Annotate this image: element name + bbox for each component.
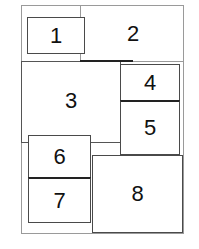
region-3: 3 <box>21 61 121 143</box>
region-4: 4 <box>120 64 180 101</box>
region-7-label: 7 <box>53 190 65 212</box>
region-4-label: 4 <box>144 72 156 94</box>
region-2: 2 <box>80 5 184 62</box>
region-5: 5 <box>120 100 180 155</box>
region-2-label: 2 <box>127 23 139 45</box>
region-1: 1 <box>27 17 85 54</box>
region-6: 6 <box>28 135 91 178</box>
region-7: 7 <box>28 177 91 223</box>
region-8: 8 <box>92 155 183 233</box>
region-6-label: 6 <box>53 146 65 168</box>
region-3-label: 3 <box>65 90 77 112</box>
region-1-label: 1 <box>50 25 62 47</box>
region-5-label: 5 <box>144 117 156 139</box>
region-8-label: 8 <box>131 183 143 205</box>
divider-line <box>80 60 133 62</box>
